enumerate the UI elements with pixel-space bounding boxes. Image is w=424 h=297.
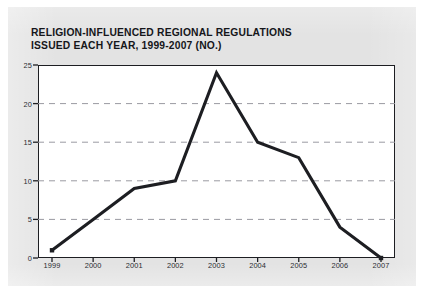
x-axis-tick-label: 2000 [85, 261, 102, 270]
x-axis-tick-label: 2001 [126, 261, 143, 270]
x-axis-tick-label: 1999 [44, 261, 61, 270]
chart-page: RELIGION-INFLUENCED REGIONAL REGULATIONS… [0, 0, 424, 297]
x-axis-tick-label: 2002 [167, 261, 184, 270]
y-axis-tick-labels: 0510152025 [14, 65, 32, 258]
y-axis-tick-label: 5 [28, 215, 32, 224]
chart-title-line-2: ISSUED EACH YEAR, 1999-2007 (NO.) [31, 40, 371, 53]
y-axis-tick-label: 15 [24, 138, 32, 147]
y-axis-tick-label: 0 [28, 254, 32, 263]
x-axis-tick-labels: 199920002001200220032004200520062007 [38, 261, 395, 273]
data-point-marker [379, 256, 383, 260]
line-chart-svg [38, 65, 395, 258]
data-point-marker [50, 248, 54, 252]
x-axis-tick-label: 2003 [208, 261, 225, 270]
x-axis-tick-label: 2007 [373, 261, 390, 270]
gridlines-group [38, 104, 395, 220]
x-axis-tick-label: 2004 [249, 261, 266, 270]
data-series-line [52, 73, 381, 258]
y-axis-tick-label: 25 [24, 61, 32, 70]
chart-title: RELIGION-INFLUENCED REGIONAL REGULATIONS… [31, 27, 371, 52]
x-axis-tick-label: 2006 [331, 261, 348, 270]
plot-area [38, 65, 395, 258]
y-axis-tick-label: 20 [24, 99, 32, 108]
y-axis-tick-label: 10 [24, 176, 32, 185]
chart-title-line-1: RELIGION-INFLUENCED REGIONAL REGULATIONS [31, 27, 371, 40]
x-axis-tick-label: 2005 [290, 261, 307, 270]
